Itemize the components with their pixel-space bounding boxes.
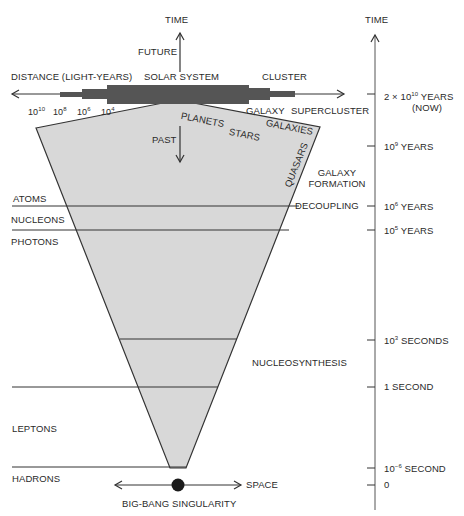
time-axis-label: TIME: [365, 15, 388, 25]
tick-now: 2 × 1010 YEARS(NOW): [384, 89, 453, 113]
nucleons-label: NUCLEONS: [11, 215, 65, 225]
photons-label: PHOTONS: [11, 237, 59, 247]
scale-tick-1e4: 104: [101, 106, 115, 117]
scale-tick-1e8: 108: [53, 106, 67, 117]
bar-segment-galaxy: [248, 88, 270, 100]
tick-1e9-years: 109 YEARS: [384, 141, 434, 152]
bar-segment-1e8: [82, 89, 108, 99]
tick-zero: 0: [384, 480, 389, 490]
nucleosynthesis-label: NUCLEOSYNTHESIS: [252, 358, 347, 368]
scale-tick-1e10: 1010: [28, 106, 45, 117]
tick-1e5-years: 105 YEARS: [384, 225, 434, 236]
past-label: PAST: [152, 135, 177, 145]
future-label: FUTURE: [138, 47, 177, 57]
top-time-label: TIME: [165, 15, 188, 25]
bar-segment-1e10: [60, 92, 84, 97]
galaxy-formation-label: GALAXYFORMATION: [300, 167, 374, 189]
bar-segment-solar-system: [107, 85, 249, 104]
distance-label: DISTANCE (LIGHT-YEARS): [11, 72, 132, 82]
tick-1-second: 1 SECOND: [384, 382, 433, 392]
time-axis-ticks: [367, 94, 375, 485]
big-bang-singularity-dot: [172, 479, 185, 492]
cluster-label: CLUSTER: [262, 72, 307, 82]
tick-1e3-seconds: 103 SECONDS: [384, 335, 449, 346]
bar-segment-cluster: [269, 91, 295, 97]
big-bang-singularity-label: BIG-BANG SINGULARITY: [122, 499, 236, 509]
supercluster-label: SUPERCLUSTER: [291, 106, 369, 116]
universe-cone: [36, 100, 320, 468]
solar-system-label: SOLAR SYSTEM: [144, 72, 219, 82]
decoupling-label: DECOUPLING: [295, 201, 359, 211]
space-label: SPACE: [246, 480, 278, 490]
scale-tick-1e6: 106: [77, 106, 91, 117]
galaxy-label: GALAXY: [246, 106, 285, 116]
atoms-label: ATOMS: [13, 194, 46, 204]
tick-1e-6-second: 10−6 SECOND: [384, 463, 446, 474]
leptons-label: LEPTONS: [12, 424, 57, 434]
hadrons-label: HADRONS: [12, 474, 60, 484]
tick-1e6-years: 106 YEARS: [384, 201, 434, 212]
